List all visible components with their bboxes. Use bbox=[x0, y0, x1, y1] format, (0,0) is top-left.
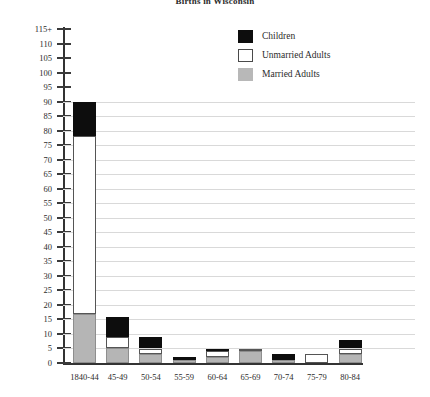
bar-segment-unmarried-adults bbox=[139, 349, 162, 355]
bar-segment-unmarried-adults bbox=[73, 136, 96, 313]
bar-segment-children bbox=[339, 340, 362, 349]
gridline bbox=[63, 189, 415, 190]
y-axis-tick-label: 55 bbox=[0, 199, 52, 208]
y-axis-tick-label: 75 bbox=[0, 141, 52, 150]
gridline bbox=[63, 145, 415, 146]
y-axis-tick-label: 25 bbox=[0, 286, 52, 295]
bar-segment-unmarried-adults bbox=[239, 349, 262, 352]
y-axis-tick-label: 20 bbox=[0, 301, 52, 310]
gridline bbox=[63, 232, 415, 233]
y-axis-tick-label: 40 bbox=[0, 243, 52, 252]
chart-container: Births in Wisconsin 05101520253035404550… bbox=[0, 0, 430, 397]
legend-item-children: Children bbox=[238, 28, 330, 45]
legend-label-married-adults: Married Adults bbox=[262, 69, 320, 80]
bar-45-49[interactable] bbox=[106, 317, 129, 363]
bar-segment-children bbox=[173, 357, 196, 360]
legend-item-unmarried-adults: Unmarried Adults bbox=[238, 47, 330, 64]
y-axis-tick-label: 15 bbox=[0, 315, 52, 324]
gridline bbox=[63, 261, 415, 262]
bar-segment-children bbox=[139, 337, 162, 349]
bar-segment-married-adults bbox=[106, 348, 129, 363]
x-axis-line bbox=[63, 363, 363, 365]
gridline bbox=[63, 218, 415, 219]
gridline bbox=[63, 160, 415, 161]
bar-segment-married-adults bbox=[239, 351, 262, 363]
legend-label-unmarried-adults: Unmarried Adults bbox=[262, 50, 330, 61]
bar-segment-children bbox=[206, 349, 229, 352]
y-axis-tick-label: 60 bbox=[0, 185, 52, 194]
bar-segment-children bbox=[106, 317, 129, 337]
y-axis-tick-label: 115+ bbox=[0, 25, 52, 34]
gridline bbox=[63, 290, 415, 291]
bar-60-64[interactable] bbox=[206, 348, 229, 363]
y-axis-tick-label: 35 bbox=[0, 257, 52, 266]
y-axis-tick-label: 10 bbox=[0, 330, 52, 339]
y-axis-tick-label: 45 bbox=[0, 228, 52, 237]
white-swatch-icon bbox=[238, 49, 253, 62]
bar-segment-married-adults bbox=[272, 360, 295, 363]
bar-segment-unmarried-adults bbox=[305, 354, 328, 363]
y-axis-tick-label: 0 bbox=[0, 359, 52, 368]
y-axis-tick-label: 100 bbox=[0, 69, 52, 78]
y-axis-tick-label: 85 bbox=[0, 112, 52, 121]
chart-title: Births in Wisconsin bbox=[0, 0, 430, 6]
bar-segment-married-adults bbox=[206, 357, 229, 363]
y-axis-tick-label: 95 bbox=[0, 83, 52, 92]
gridline bbox=[63, 305, 415, 306]
gridline bbox=[63, 102, 415, 103]
bar-segment-children bbox=[272, 354, 295, 360]
y-axis-tick-label: 105 bbox=[0, 54, 52, 63]
y-axis-tick-label: 5 bbox=[0, 344, 52, 353]
y-axis-tick-label: 90 bbox=[0, 98, 52, 107]
y-axis-tick-label: 65 bbox=[0, 170, 52, 179]
y-axis-tick-label: 80 bbox=[0, 127, 52, 136]
y-axis-tick-label: 50 bbox=[0, 214, 52, 223]
bar-75-79[interactable] bbox=[305, 354, 328, 363]
bar-80-84[interactable] bbox=[339, 340, 362, 363]
gridline bbox=[63, 203, 415, 204]
y-axis-tick-label: 30 bbox=[0, 272, 52, 281]
bar-segment-married-adults bbox=[173, 360, 196, 363]
gridline bbox=[63, 116, 415, 117]
bar-50-54[interactable] bbox=[139, 337, 162, 363]
bar-segment-unmarried-adults bbox=[339, 349, 362, 355]
gridline bbox=[63, 276, 415, 277]
bar-segment-unmarried-adults bbox=[206, 351, 229, 357]
gray-swatch-icon bbox=[238, 68, 253, 81]
bar-segment-unmarried-adults bbox=[106, 337, 129, 349]
bar-segment-married-adults bbox=[139, 354, 162, 363]
gridline bbox=[63, 247, 415, 248]
bar-segment-married-adults bbox=[73, 314, 96, 363]
gridline bbox=[63, 174, 415, 175]
bar-65-69[interactable] bbox=[239, 348, 262, 363]
bar-segment-married-adults bbox=[339, 354, 362, 363]
legend-label-children: Children bbox=[262, 31, 295, 42]
bar-70-74[interactable] bbox=[272, 354, 295, 363]
x-axis-tick-label: 80-84 bbox=[329, 372, 372, 382]
black-swatch-icon bbox=[238, 30, 253, 43]
legend-item-married-adults: Married Adults bbox=[238, 66, 330, 83]
y-axis-tick-label: 110 bbox=[0, 40, 52, 49]
bar-1840-44[interactable] bbox=[73, 102, 96, 363]
y-axis-tick-label: 70 bbox=[0, 156, 52, 165]
bar-segment-children bbox=[73, 102, 96, 137]
chart-legend: Children Unmarried Adults Married Adults bbox=[238, 28, 330, 85]
gridline bbox=[63, 131, 415, 132]
bar-55-59[interactable] bbox=[173, 357, 196, 363]
